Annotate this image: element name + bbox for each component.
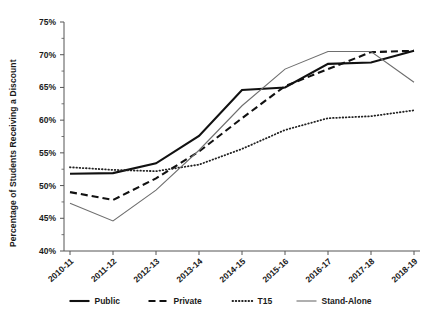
x-axis-tick-labels: 2010-112011-122012-132013-142014-152015-… — [46, 256, 420, 284]
y-axis-tick-labels: 40%45%50%55%60%65%70%75% — [39, 17, 56, 256]
series-line-stand-alone — [70, 51, 414, 220]
series-line-public — [70, 51, 414, 174]
y-tick-label: 55% — [39, 148, 56, 158]
legend-label-t15: T15 — [258, 296, 273, 306]
line-chart: Percentage of Students Receiving a Disco… — [0, 0, 428, 320]
legend-label-public: Public — [95, 296, 121, 306]
x-tick-label: 2013-14 — [174, 256, 204, 284]
y-axis-ticks — [60, 22, 64, 251]
y-tick-label: 65% — [39, 82, 56, 92]
series-line-private — [70, 51, 414, 200]
y-tick-label: 50% — [39, 181, 56, 191]
x-tick-label: 2018-19 — [389, 256, 419, 284]
series-line-t15 — [70, 110, 414, 171]
x-tick-label: 2010-11 — [46, 256, 76, 284]
x-tick-label: 2016-17 — [303, 256, 333, 284]
series-group — [70, 51, 414, 221]
y-tick-label: 70% — [39, 50, 56, 60]
y-axis-title: Percentage of Students Receiving a Disco… — [8, 59, 18, 247]
x-axis-ticks — [70, 251, 414, 255]
x-tick-label: 2011-12 — [89, 256, 119, 284]
x-tick-label: 2012-13 — [131, 256, 161, 284]
legend-label-private: Private — [174, 296, 203, 306]
x-tick-label: 2015-16 — [260, 256, 290, 284]
x-tick-label: 2017-18 — [346, 256, 376, 284]
y-tick-label: 45% — [39, 213, 56, 223]
legend-label-stand-alone: Stand-Alone — [322, 296, 372, 306]
y-tick-label: 75% — [39, 17, 56, 27]
x-tick-label: 2014-15 — [217, 256, 247, 284]
y-tick-label: 60% — [39, 115, 56, 125]
chart-container: Percentage of Students Receiving a Disco… — [0, 0, 428, 320]
chart-legend: PublicPrivateT15Stand-Alone — [70, 296, 372, 306]
y-tick-label: 40% — [39, 246, 56, 256]
